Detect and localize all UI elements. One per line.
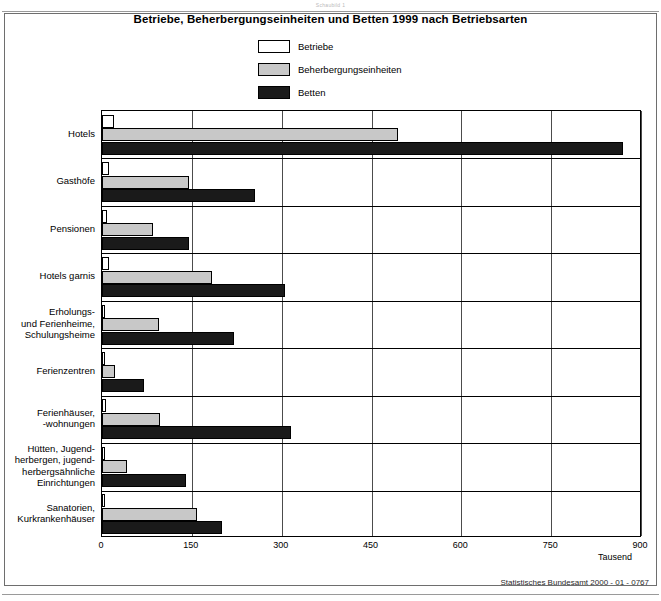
category-separator — [102, 443, 640, 444]
x-axis-unit: Tausend — [598, 552, 632, 562]
bar-einheiten — [102, 460, 127, 473]
category-separator — [102, 206, 640, 207]
category-separator — [102, 253, 640, 254]
bar-einheiten — [102, 271, 212, 284]
legend-label-betten: Betten — [298, 87, 325, 98]
bar-einheiten — [102, 365, 115, 378]
gridline-750 — [551, 111, 552, 536]
legend-swatch-betten — [258, 86, 290, 99]
y-axis-label-line: Pensionen — [0, 223, 95, 235]
bar-einheiten — [102, 508, 197, 521]
legend-swatch-betriebe — [258, 40, 290, 53]
x-axis-tick-300: 300 — [261, 540, 301, 550]
bar-einheiten — [102, 176, 189, 189]
category-separator — [102, 396, 640, 397]
y-axis-label-8: Sanatorien,Kurkrankenhäuser — [0, 502, 95, 525]
y-axis-label-line: Hotels — [0, 128, 95, 140]
y-axis-label-7: Hütten, Jugend-herbergen, jugend-herberg… — [0, 443, 95, 489]
legend-label-betriebe: Betriebe — [298, 41, 333, 52]
legend-item-betten: Betten — [258, 82, 558, 102]
y-axis-label-line: Kurkrankenhäuser — [0, 513, 95, 525]
bar-betten — [102, 474, 186, 487]
bar-betriebe — [102, 162, 109, 175]
x-axis-tick-450: 450 — [351, 540, 391, 550]
y-axis-label-line: Gasthöfe — [0, 175, 95, 187]
legend-label-beherbergungseinheiten: Beherbergungseinheiten — [298, 64, 402, 75]
gridline-300 — [282, 111, 283, 536]
bar-betriebe — [102, 257, 109, 270]
page-title: Betriebe, Beherbergungseinheiten und Bet… — [0, 13, 661, 25]
x-axis-tick-150: 150 — [171, 540, 211, 550]
x-axis-tick-600: 600 — [440, 540, 480, 550]
y-axis-label-line: Schulungsheime — [0, 329, 95, 341]
legend-item-betriebe: Betriebe — [258, 36, 558, 56]
category-separator — [102, 491, 640, 492]
y-axis-label-3: Hotels garnis — [0, 270, 95, 282]
bar-betriebe — [102, 494, 105, 507]
y-axis-label-6: Ferienhäuser,-wohnungen — [0, 407, 95, 430]
bar-einheiten — [102, 413, 160, 426]
bottom-divider — [2, 594, 659, 595]
y-axis-label-4: Erholungs-und Ferienheime,Schulungsheime — [0, 306, 95, 341]
bar-betriebe — [102, 210, 107, 223]
y-axis-label-2: Pensionen — [0, 223, 95, 235]
y-axis-label-5: Ferienzentren — [0, 365, 95, 377]
category-separator — [102, 348, 640, 349]
y-axis-label-1: Gasthöfe — [0, 175, 95, 187]
y-axis-label-line: Einrichtungen — [0, 477, 95, 489]
bar-betten — [102, 142, 623, 155]
category-separator — [102, 301, 640, 302]
bar-betten — [102, 521, 222, 534]
bar-einheiten — [102, 128, 398, 141]
bar-betriebe — [102, 305, 105, 318]
bar-betriebe — [102, 352, 105, 365]
legend-swatch-beherbergungseinheiten — [258, 63, 290, 76]
top-divider — [2, 11, 659, 12]
y-axis-label-line: Ferienhäuser, — [0, 407, 95, 419]
chart-legend: Betriebe Beherbergungseinheiten Betten — [258, 36, 558, 105]
y-axis-label-line: herbergen, jugend- — [0, 454, 95, 466]
top-caption: Schaubild 1 — [0, 0, 661, 11]
gridline-450 — [372, 111, 373, 536]
y-axis-label-line: -wohnungen — [0, 418, 95, 430]
y-axis-label-line: Hotels garnis — [0, 270, 95, 282]
y-axis-label-line: herbergsähnliche — [0, 466, 95, 478]
x-axis-tick-0: 0 — [81, 540, 121, 550]
source-note: Statistisches Bundesamt 2000 - 01 - 0767 — [500, 578, 649, 587]
x-axis-labels: 0150300450600750900 — [0, 540, 661, 554]
bar-betten — [102, 426, 291, 439]
bar-betten — [102, 332, 234, 345]
bar-betriebe — [102, 447, 105, 460]
category-separator — [102, 158, 640, 159]
y-axis-label-line: und Ferienheime, — [0, 318, 95, 330]
bar-betten — [102, 189, 255, 202]
y-axis-label-line: Ferienzentren — [0, 365, 95, 377]
gridline-150 — [192, 111, 193, 536]
bar-einheiten — [102, 223, 153, 236]
y-axis-labels: HotelsGasthöfePensionenHotels garnisErho… — [0, 110, 99, 537]
plot-area — [101, 110, 641, 537]
bar-betten — [102, 284, 285, 297]
y-axis-label-line: Sanatorien, — [0, 502, 95, 514]
y-axis-label-line: Erholungs- — [0, 306, 95, 318]
x-axis-tick-750: 750 — [530, 540, 570, 550]
bar-betten — [102, 379, 144, 392]
bar-betriebe — [102, 115, 114, 128]
gridline-900 — [641, 111, 642, 536]
chart-page: Schaubild 1 Betriebe, Beherbergungseinhe… — [0, 0, 661, 601]
y-axis-label-line: Hütten, Jugend- — [0, 443, 95, 455]
bar-betten — [102, 237, 189, 250]
legend-item-beherbergungseinheiten: Beherbergungseinheiten — [258, 59, 558, 79]
bar-einheiten — [102, 318, 159, 331]
y-axis-label-0: Hotels — [0, 128, 95, 140]
bar-betriebe — [102, 399, 106, 412]
x-axis-tick-900: 900 — [620, 540, 660, 550]
gridline-600 — [461, 111, 462, 536]
